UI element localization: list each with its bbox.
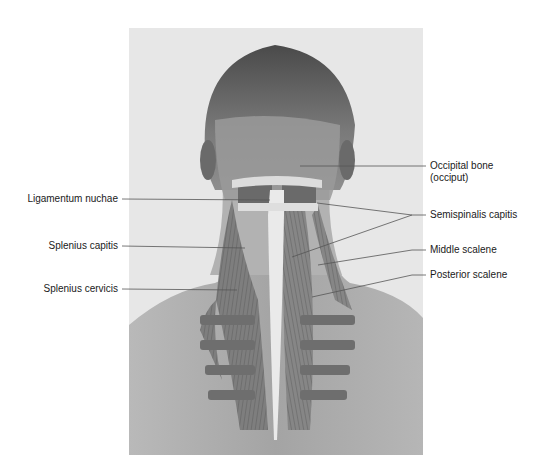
label-occipital-bone-line1: Occipital bone bbox=[430, 160, 493, 172]
label-ligamentum-nuchae: Ligamentum nuchae bbox=[27, 193, 118, 205]
label-splenius-capitis: Splenius capitis bbox=[49, 240, 118, 252]
label-occipital-bone-line2: (occiput) bbox=[430, 172, 493, 184]
label-posterior-scalene: Posterior scalene bbox=[430, 269, 507, 281]
label-occipital-bone: Occipital bone (occiput) bbox=[430, 160, 493, 184]
anatomy-figure bbox=[0, 0, 536, 463]
label-semispinalis-capitis: Semispinalis capitis bbox=[430, 209, 517, 221]
label-middle-scalene: Middle scalene bbox=[430, 244, 497, 256]
label-splenius-cervicis: Splenius cervicis bbox=[44, 283, 118, 295]
